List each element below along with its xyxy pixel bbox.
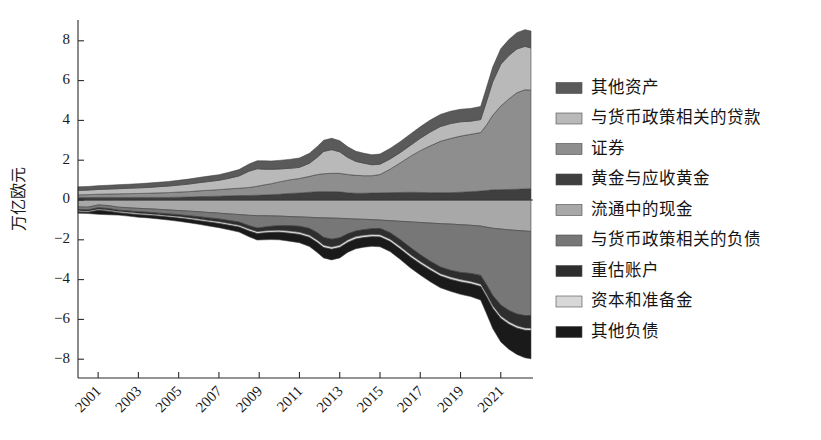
y-tick-label: 2 [63,151,71,167]
area-series-securities [78,90,531,198]
legend-label: 其他负债 [591,322,659,341]
legend-label: 黄金与应收黄金 [591,169,710,188]
legend-label: 资本和准备金 [591,291,693,310]
legend-swatch [556,327,582,338]
legend-label: 其他资产 [591,78,659,97]
x-tick-label: 2021 [474,383,507,416]
chart-legend: 其他资产与货币政策相关的贷款证券黄金与应收黄金流通中的现金与货币政策相关的负债重… [556,78,761,341]
x-tick-label: 2017 [394,382,427,415]
legend-swatch [556,144,582,155]
x-tick-label: 2019 [434,383,467,416]
legend-swatch [556,174,582,185]
legend-swatch [556,205,582,216]
legend-label: 流通中的现金 [591,200,693,219]
stacked-area-chart: −8−6−4−202468 20012003200520072009201120… [0,0,821,440]
legend-swatch [556,266,582,277]
legend-label: 与货币政策相关的贷款 [591,108,761,127]
y-tick-label: −6 [54,310,70,326]
area-series-group [78,30,531,359]
legend-swatch [556,235,582,246]
y-tick-label: 8 [63,31,71,47]
chart-figure: −8−6−4−202468 20012003200520072009201120… [0,0,821,440]
x-tick-label: 2015 [354,383,387,416]
legend-label: 与货币政策相关的负债 [591,230,761,249]
y-tick-label: −8 [54,350,70,366]
legend-label: 重估账户 [591,261,659,280]
x-tick-label: 2011 [273,383,305,415]
y-tick-label: 6 [63,71,71,87]
x-tick-label: 2009 [233,383,266,416]
legend-swatch [556,83,582,94]
legend-swatch [556,113,582,124]
legend-label: 证券 [591,139,625,158]
x-tick-label: 2003 [112,383,145,416]
x-tick-label: 2007 [193,382,226,415]
y-tick-label: −2 [54,230,70,246]
x-tick-label: 2005 [152,383,185,416]
y-tick-label: 4 [63,111,71,127]
legend-swatch [556,296,582,307]
y-axis-title: 万亿欧元 [10,167,27,231]
plot-area [78,30,533,359]
y-tick-label: −4 [54,270,70,286]
x-tick-label: 2001 [72,383,105,416]
x-tick-label: 2013 [313,383,346,416]
y-tick-label: 0 [63,190,71,206]
